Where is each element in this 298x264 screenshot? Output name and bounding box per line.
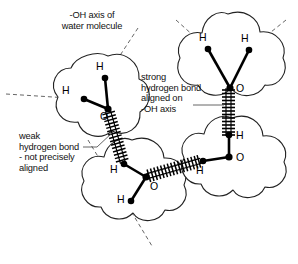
atom-center-hydrogen-left [81,96,88,103]
atom-label-topright-oxygen: O [236,82,244,94]
atom-label-center-hydrogen-top: H [96,60,104,72]
atom-bottom-hydrogen-bottom [128,198,135,205]
atom-bottom-hydrogen-top [121,161,128,168]
atom-label-center-hydrogen-left: H [62,84,70,96]
atom-label-right-hydrogen-top: H [236,129,244,141]
atom-topright-hydrogen-right [246,47,253,54]
atom-topright-oxygen [226,84,233,91]
atom-label-topright-hydrogen-left: H [199,31,207,43]
atom-label-bottom-hydrogen-bottom: H [117,193,125,205]
electron-cloud-outlines [54,12,286,220]
atom-center-hydrogen-top [102,75,109,82]
atom-label-bottom-hydrogen-top: H [110,163,118,175]
strong-bond-rungs [222,90,235,135]
atom-right-hydrogen-top [226,132,233,139]
strong-hydrogen-bond [222,88,235,136]
cloud-molecule-bottom-center [82,138,186,220]
atom-bottom-oxygen [142,173,149,180]
atom-label-topright-hydrogen-right: H [241,32,249,44]
water-hydrogen-bonding-diagram: -OH axis of water molecule strong hydrog… [0,0,298,264]
weak-hydrogen-bond-caption: weak hydrogen bond - not precisely align… [19,131,91,173]
strong-hydrogen-bond-caption: strong hydrogen bond aligned on -OH axis [141,72,201,114]
atom-label-right-hydrogen-left: H [196,164,204,176]
atom-label-bottom-oxygen: O [150,180,158,192]
oh-axis-caption: -OH axis of water molecule [44,10,140,31]
atom-topright-hydrogen-left [205,46,212,53]
atom-right-oxygen [225,153,232,160]
atom-label-center-oxygen: O [100,110,108,122]
atom-label-right-oxygen: O [236,151,244,163]
